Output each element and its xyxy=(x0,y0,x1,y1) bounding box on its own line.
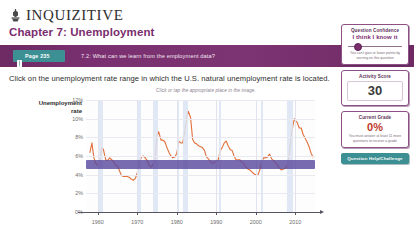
x-axis-tickmark xyxy=(98,212,99,215)
x-axis-tick-label: 2000 xyxy=(250,219,262,225)
norton-seal-icon xyxy=(9,9,22,23)
x-axis-tickmark xyxy=(177,212,178,215)
x-axis-tickmark xyxy=(216,212,217,215)
question-confidence-value: I think I know it xyxy=(346,34,404,40)
gridline-horizontal xyxy=(86,100,315,101)
y-axis-tick-label: 12% xyxy=(72,97,83,103)
x-axis-line xyxy=(78,212,321,213)
series-line xyxy=(90,111,313,180)
y-axis-title-line2: rate xyxy=(26,108,82,116)
question-prompt: Click on the unemployment rate range in … xyxy=(9,74,330,83)
x-axis-tickmark xyxy=(137,212,138,215)
y-axis-tick-label: 10% xyxy=(72,116,83,122)
inquizitive-activity-screen: INQUIZITIVE Chapter 7: Unemployment Page… xyxy=(0,0,414,245)
question-confidence-card: Question Confidence I think I know it Yo… xyxy=(341,24,409,65)
x-axis-tick-label: 1960 xyxy=(92,219,104,225)
activity-score-box: 30 xyxy=(347,81,403,101)
x-axis-tick-label: 1990 xyxy=(210,219,222,225)
current-grade-card: Current Grade 0% You must answer at leas… xyxy=(341,111,409,148)
selected-rate-range-band[interactable] xyxy=(86,160,315,169)
y-axis-tick-label: 2% xyxy=(75,190,83,196)
question-confidence-note: You can't gain or lower points by earnin… xyxy=(346,51,404,61)
x-axis-tick-label: 1980 xyxy=(171,219,183,225)
activity-score-card: Activity Score 30 xyxy=(341,70,409,106)
confidence-slider-knob[interactable] xyxy=(354,43,362,51)
y-axis-tick-label: 8% xyxy=(75,134,83,140)
brand-name-in: IN xyxy=(26,7,43,23)
page-reference-label: Page 235 xyxy=(25,53,50,59)
brand-logo: INQUIZITIVE xyxy=(9,8,123,23)
gridline-vertical xyxy=(98,100,99,212)
gridline-vertical xyxy=(137,100,138,212)
y-axis-tick-label: 4% xyxy=(75,172,83,178)
question-title: 7.2: What can we learn from the employme… xyxy=(81,53,215,59)
gridline-horizontal xyxy=(86,193,315,194)
sidebar: Question Confidence I think I know it Yo… xyxy=(341,24,409,164)
y-axis-tick-label: 6% xyxy=(75,153,83,159)
gridline-horizontal xyxy=(86,119,315,120)
activity-score-title: Activity Score xyxy=(346,74,404,79)
brand-name-rest: QUIZITIVE xyxy=(43,7,123,23)
current-grade-note: You must answer at least 11 more questio… xyxy=(346,134,404,144)
chart-instruction-hint: Click or tap the appropriate place in th… xyxy=(116,88,296,93)
book-icon xyxy=(17,53,22,60)
gridline-vertical xyxy=(216,100,217,212)
activity-score-value: 30 xyxy=(348,84,402,97)
brand-name: INQUIZITIVE xyxy=(26,8,123,23)
x-axis-tick-label: 1970 xyxy=(131,219,143,225)
question-confidence-title: Question Confidence xyxy=(346,28,404,33)
gridline-horizontal xyxy=(86,156,315,157)
page-reference-button[interactable]: Page 235 xyxy=(13,50,65,62)
gridline-horizontal xyxy=(86,137,315,138)
gridline-vertical xyxy=(256,100,257,212)
chapter-title: Chapter 7: Unemployment xyxy=(9,26,154,38)
gridline-vertical xyxy=(295,100,296,212)
unemployment-chart[interactable]: Click or tap the appropriate place in th… xyxy=(20,88,332,233)
current-grade-value: 0% xyxy=(346,122,404,133)
x-axis-tickmark xyxy=(295,212,296,215)
question-help-challenge-button[interactable]: Question Help/Challenge xyxy=(341,153,409,164)
chart-plot-area[interactable]: 0% 12%10%8%6%4%2%19601970198019902000201… xyxy=(86,100,315,212)
gridline-horizontal xyxy=(86,175,315,176)
confidence-slider[interactable] xyxy=(348,42,402,50)
y-axis-zero-label: 0% xyxy=(75,209,83,215)
x-axis-tickmark xyxy=(256,212,257,215)
x-axis-tick-label: 2010 xyxy=(289,219,301,225)
current-grade-title: Current Grade xyxy=(346,115,404,120)
gridline-vertical xyxy=(177,100,178,212)
